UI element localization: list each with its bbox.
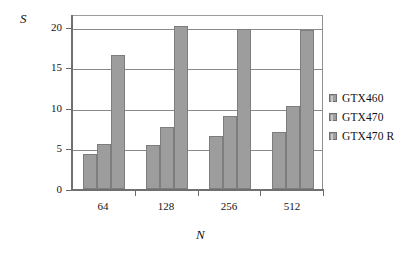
legend: GTX460GTX470GTX470 R (329, 88, 415, 145)
y-tick-mark (66, 109, 71, 110)
y-tick-label: 5 (38, 143, 62, 154)
y-tick-label: 20 (38, 22, 62, 33)
bar (97, 144, 111, 189)
x-tick-label: 128 (146, 200, 186, 212)
x-tick-label: 64 (83, 200, 123, 212)
x-axis-title: N (196, 227, 205, 243)
x-tick-mark (135, 191, 136, 196)
y-axis-spine (71, 15, 73, 191)
bar (286, 106, 300, 189)
x-tick-mark (323, 191, 324, 196)
y-axis-title: S (20, 11, 27, 27)
bar (209, 136, 223, 189)
bar (223, 116, 237, 189)
legend-swatch-icon (329, 94, 337, 102)
bar (111, 55, 125, 189)
legend-item: GTX470 R (329, 126, 415, 145)
legend-label: GTX470 R (342, 130, 394, 142)
y-tick-mark (66, 28, 71, 29)
y-tick-mark (66, 190, 71, 191)
legend-swatch-icon (329, 132, 337, 140)
x-tick-mark (260, 191, 261, 196)
legend-swatch-icon (329, 113, 337, 121)
legend-item: GTX470 (329, 107, 415, 126)
bar (146, 145, 160, 189)
x-tick-mark (198, 191, 199, 196)
bar (160, 127, 174, 189)
bars-layer (73, 16, 322, 189)
bar (237, 29, 251, 189)
plot-area (72, 15, 323, 190)
bar (272, 132, 286, 189)
legend-item: GTX460 (329, 88, 415, 107)
x-tick-label: 512 (272, 200, 312, 212)
y-tick-mark (66, 149, 71, 150)
bar (174, 26, 188, 189)
y-tick-label: 0 (38, 184, 62, 195)
bar (83, 154, 97, 189)
bar (300, 30, 314, 189)
legend-label: GTX460 (342, 92, 384, 104)
y-tick-mark (66, 68, 71, 69)
y-tick-label: 15 (38, 62, 62, 73)
y-tick-label: 10 (38, 103, 62, 114)
x-tick-label: 256 (209, 200, 249, 212)
legend-label: GTX470 (342, 111, 384, 123)
bar-chart-figure: S N 05101520 64128256512 GTX460GTX470GTX… (0, 0, 416, 256)
